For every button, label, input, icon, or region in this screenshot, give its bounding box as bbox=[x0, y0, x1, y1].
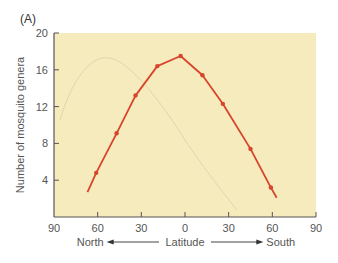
x-tick-label: 0 bbox=[182, 222, 188, 234]
data-point bbox=[248, 147, 252, 151]
y-tick-label: 12 bbox=[36, 101, 48, 113]
y-tick-label: 4 bbox=[42, 174, 48, 186]
x-tick-label: 90 bbox=[48, 222, 60, 234]
x-tick-label: 60 bbox=[92, 222, 104, 234]
data-point bbox=[221, 102, 225, 106]
x-tick-label: 30 bbox=[135, 222, 147, 234]
x-tick-label: 60 bbox=[266, 222, 278, 234]
x-tick-label: 90 bbox=[310, 222, 322, 234]
data-point bbox=[200, 73, 204, 77]
x-tick-label: 30 bbox=[223, 222, 235, 234]
data-point bbox=[155, 64, 159, 68]
data-point bbox=[178, 54, 182, 58]
y-axis-title: Number of mosquito genera bbox=[14, 56, 26, 193]
north-label: North bbox=[77, 236, 104, 248]
data-point bbox=[133, 93, 137, 97]
south-arrow-icon bbox=[256, 240, 263, 245]
y-tick-label: 20 bbox=[36, 27, 48, 39]
data-point bbox=[269, 185, 273, 189]
y-tick-label: 16 bbox=[36, 64, 48, 76]
latitude-chart: 481216209060300306090Number of mosquito … bbox=[0, 0, 338, 263]
data-point bbox=[94, 171, 98, 175]
y-tick-label: 8 bbox=[42, 137, 48, 149]
north-arrow-icon bbox=[107, 240, 114, 245]
data-point bbox=[114, 131, 118, 135]
x-axis-title: Latitude bbox=[165, 236, 204, 248]
south-label: South bbox=[266, 236, 295, 248]
